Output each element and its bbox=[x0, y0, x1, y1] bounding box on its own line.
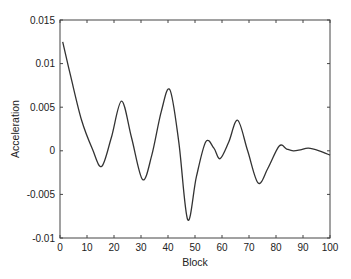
x-tick-label: 60 bbox=[216, 242, 228, 253]
x-tick-label: 40 bbox=[162, 242, 174, 253]
data-series bbox=[63, 42, 330, 221]
y-tick-label: 0.015 bbox=[30, 15, 55, 26]
y-tick-label: 0 bbox=[49, 145, 55, 156]
plot-area bbox=[60, 20, 330, 238]
x-tick-label: 10 bbox=[81, 242, 93, 253]
plot-border bbox=[60, 20, 330, 238]
x-axis-label: Block bbox=[182, 256, 208, 268]
x-tick-label: 20 bbox=[108, 242, 120, 253]
axis-ticks: 0102030405060708090100-0.01-0.00500.0050… bbox=[27, 15, 339, 254]
y-tick-label: -0.01 bbox=[32, 233, 55, 244]
x-tick-label: 80 bbox=[270, 242, 282, 253]
x-tick-label: 100 bbox=[322, 242, 339, 253]
y-tick-label: 0.005 bbox=[30, 102, 55, 113]
y-tick-label: -0.005 bbox=[27, 189, 56, 200]
x-tick-label: 50 bbox=[189, 242, 201, 253]
line-chart: 0102030405060708090100-0.01-0.00500.0050… bbox=[0, 0, 351, 279]
x-tick-label: 90 bbox=[297, 242, 309, 253]
x-tick-label: 0 bbox=[57, 242, 63, 253]
y-tick-label: 0.01 bbox=[36, 58, 56, 69]
y-axis-label: Acceleration bbox=[9, 100, 21, 158]
x-tick-label: 70 bbox=[243, 242, 255, 253]
x-tick-label: 30 bbox=[135, 242, 147, 253]
series-line bbox=[63, 42, 330, 221]
